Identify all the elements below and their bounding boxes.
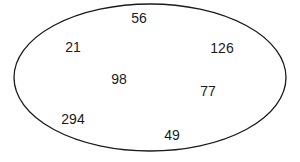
number-label: 77 <box>200 84 216 98</box>
number-label: 21 <box>65 40 81 54</box>
ellipse-outline <box>0 0 300 162</box>
number-label: 56 <box>131 11 147 25</box>
number-label: 126 <box>210 41 233 55</box>
number-label: 294 <box>61 112 84 126</box>
number-label: 49 <box>164 128 180 142</box>
number-label: 98 <box>111 72 127 86</box>
